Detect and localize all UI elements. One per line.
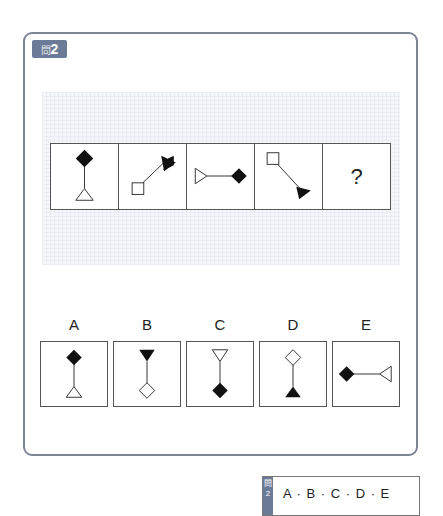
sequence-cell-5: ? (323, 144, 390, 209)
option-e[interactable] (332, 341, 400, 407)
sequence-cell-3 (187, 144, 255, 209)
diamond-triangle-vertical-icon (41, 342, 107, 406)
option-label-d: D (259, 316, 327, 333)
badge-number: 2 (51, 41, 59, 57)
option-c[interactable] (186, 341, 254, 407)
option-label-b: B (113, 316, 181, 333)
option-label-c: C (186, 316, 254, 333)
answer-choices[interactable]: A · B · C · D · E (283, 486, 390, 501)
option-a[interactable] (40, 341, 108, 407)
square-triangle-diagonal-icon (119, 144, 186, 209)
square-triangle-diagonal-down-icon (255, 144, 322, 209)
answer-box: 問2 A · B · C · D · E (262, 476, 420, 516)
triangle-diamond-vertical-icon (187, 342, 253, 406)
option-label-e: E (332, 316, 400, 333)
triangle-diamond-horizontal-icon (187, 144, 254, 209)
question-badge: 問2 (32, 40, 67, 58)
badge-kanji: 問 (41, 45, 51, 56)
option-b[interactable] (113, 341, 181, 407)
answer-badge: 問2 (263, 477, 273, 515)
sequence-cell-2 (119, 144, 187, 209)
sequence-cell-4 (255, 144, 323, 209)
triangle-diamond-vertical-icon (114, 342, 180, 406)
diamond-triangle-vertical-icon (260, 342, 326, 406)
option-d[interactable] (259, 341, 327, 407)
question-mark: ? (323, 164, 390, 190)
option-label-a: A (40, 316, 108, 333)
sequence-row: ? (50, 143, 391, 210)
diamond-triangle-horizontal-icon (333, 342, 399, 406)
diamond-triangle-vertical-icon (51, 144, 118, 209)
sequence-cell-1 (51, 144, 119, 209)
